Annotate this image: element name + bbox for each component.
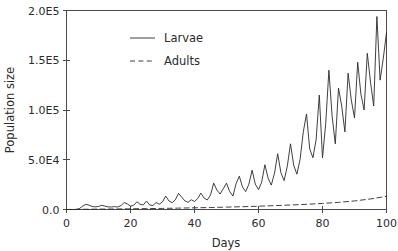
x-tick-label: 0 [63, 217, 70, 230]
x-tick-label: 80 [316, 217, 330, 230]
y-tick-label: 5.0E4 [28, 154, 59, 167]
y-tick-label: 1.5E5 [28, 54, 59, 67]
population-line-chart: 0.05.0E41.0E51.5E52.0E5 020406080100 Day… [0, 0, 398, 251]
series-line-adults [67, 196, 387, 209]
chart-figure: 0.05.0E41.0E51.5E52.0E5 020406080100 Day… [0, 0, 398, 251]
y-tick-label: 1.0E5 [28, 104, 59, 117]
data-series-group [67, 16, 387, 209]
chart-legend: LarvaeAdults [130, 31, 203, 68]
x-tick-label: 60 [252, 217, 266, 230]
x-tick-label: 20 [124, 217, 138, 230]
x-axis-title: Days [212, 236, 241, 250]
x-axis-tick-labels: 020406080100 [63, 217, 397, 230]
y-tick-label: 2.0E5 [28, 5, 59, 18]
series-line-larvae [67, 16, 387, 209]
x-tick-label: 40 [188, 217, 202, 230]
plot-frame [67, 11, 387, 210]
y-axis-title: Population size [3, 67, 17, 153]
legend-label-larvae: Larvae [164, 31, 203, 45]
y-axis-tick-labels: 0.05.0E41.0E51.5E52.0E5 [28, 5, 59, 217]
axes-spines [67, 11, 387, 210]
y-tick-label: 0.0 [42, 204, 60, 217]
legend-label-adults: Adults [164, 54, 200, 68]
x-tick-label: 100 [376, 217, 397, 230]
